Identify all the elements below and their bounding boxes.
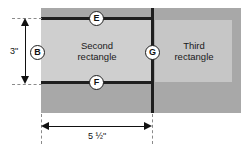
callout-bubble-b: B — [30, 45, 45, 60]
width-dimension-line — [45, 126, 148, 127]
height-dimension-line — [25, 22, 26, 82]
arrow-up-icon — [21, 18, 29, 26]
line-g — [151, 8, 154, 113]
second-rectangle-label-line1: Second — [56, 40, 138, 51]
extension-line-bottom — [12, 84, 42, 85]
arrow-right-icon — [144, 122, 152, 130]
callout-bubble-f: F — [89, 75, 104, 90]
callout-bubble-e: E — [89, 11, 104, 26]
extension-line-right — [152, 114, 153, 144]
second-rectangle-label: Second rectangle — [56, 40, 138, 62]
third-rectangle-label-line2: rectangle — [163, 51, 225, 62]
callout-bubble-g: G — [145, 45, 160, 60]
third-rectangle-label-line1: Third — [163, 40, 225, 51]
arrow-left-icon — [41, 122, 49, 130]
height-dimension-label: 3" — [5, 46, 23, 56]
arrow-down-icon — [21, 76, 29, 84]
geometry-diagram: Second rectangle Third rectangle E B G F… — [0, 0, 250, 152]
third-rectangle-label: Third rectangle — [163, 40, 225, 62]
second-rectangle-label-line2: rectangle — [56, 51, 138, 62]
width-dimension-label: 5 ½" — [66, 131, 128, 141]
